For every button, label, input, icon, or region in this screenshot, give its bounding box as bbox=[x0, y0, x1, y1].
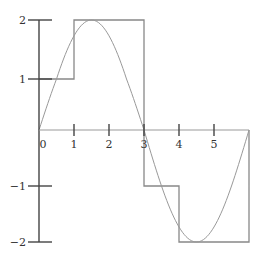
x-tick-label: 5 bbox=[211, 138, 218, 151]
y-tick-label: −1 bbox=[10, 180, 26, 193]
y-tick-label: 1 bbox=[19, 73, 26, 86]
y-tick-label: −2 bbox=[10, 236, 26, 249]
x-tick-label: 2 bbox=[106, 138, 113, 151]
chart: 21−1−2012345 bbox=[0, 0, 262, 263]
x-tick-label: 0 bbox=[40, 138, 47, 151]
x-tick-label: 4 bbox=[176, 138, 183, 151]
tick-labels: 21−1−2012345 bbox=[10, 14, 218, 249]
axes bbox=[28, 20, 249, 242]
y-tick-label: 2 bbox=[19, 14, 26, 27]
x-tick-label: 3 bbox=[141, 138, 148, 151]
x-tick-label: 1 bbox=[71, 138, 78, 151]
